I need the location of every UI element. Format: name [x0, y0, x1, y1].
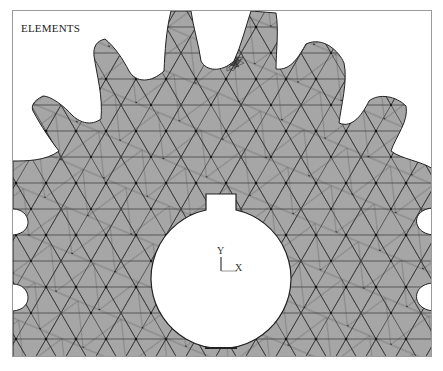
gear-mesh: Y X	[13, 11, 432, 357]
graphics-viewport[interactable]: ELEMENTS	[12, 10, 432, 357]
x-axis-label: X	[235, 262, 243, 273]
y-axis-label: Y	[217, 245, 224, 256]
